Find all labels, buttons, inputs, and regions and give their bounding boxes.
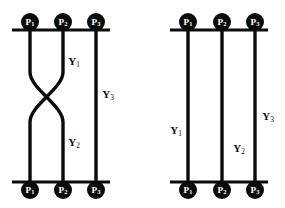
right-top-node-2: P2 bbox=[213, 13, 231, 31]
edge-label-y1: Y1 bbox=[68, 55, 80, 69]
edge-label-y2: Y2 bbox=[233, 142, 245, 156]
edge-label-y3: Y3 bbox=[102, 88, 114, 102]
right-bottom-node-3: P3 bbox=[246, 181, 264, 199]
right-top-node-1: P1 bbox=[179, 13, 197, 31]
right-top-node-3: P3 bbox=[246, 13, 264, 31]
left-strand-2 bbox=[30, 30, 63, 182]
left-bottom-node-1: P1 bbox=[21, 181, 39, 199]
right-bottom-node-1: P1 bbox=[179, 181, 197, 199]
edge-label-y3: Y3 bbox=[262, 110, 274, 124]
edge-label-y2: Y2 bbox=[68, 136, 80, 150]
left-top-node-2: P2 bbox=[54, 13, 72, 31]
left-bottom-node-2: P2 bbox=[54, 181, 72, 199]
left-top-node-3: P3 bbox=[87, 13, 105, 31]
left-braided-diagram: P1 P2 P3 P1 P2 P3 Y1 Y2 bbox=[12, 13, 114, 199]
diagram-canvas: P1 P2 P3 P1 P2 P3 Y1 Y2 bbox=[0, 0, 285, 208]
left-bottom-node-3: P3 bbox=[87, 181, 105, 199]
edge-label-y1: Y1 bbox=[170, 124, 182, 138]
left-top-node-1: P1 bbox=[21, 13, 39, 31]
right-trivial-diagram: P1 P2 P3 P1 P2 P3 Y1 Y2 bbox=[170, 13, 274, 199]
braid-diagram-figure: P1 P2 P3 P1 P2 P3 Y1 Y2 bbox=[0, 0, 285, 208]
right-bottom-node-2: P2 bbox=[213, 181, 231, 199]
left-strand-1 bbox=[30, 30, 63, 182]
